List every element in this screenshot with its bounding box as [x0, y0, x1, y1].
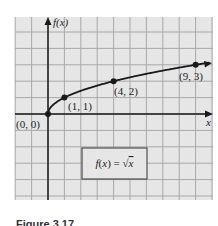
data-point — [45, 111, 51, 117]
point-label-origin: (0, 0) — [16, 118, 40, 131]
sqrt-function-graph: f(x) = √x f(x) x (0, 0) (1, 1) (4, 2) (9… — [0, 0, 218, 226]
point-label-9-3: (9, 3) — [179, 70, 203, 83]
data-point — [193, 62, 199, 68]
formula-text: f(x) = √x — [96, 157, 134, 170]
y-axis-label: f(x) — [53, 16, 69, 29]
point-label-4-2: (4, 2) — [114, 85, 138, 98]
data-point — [111, 78, 117, 84]
point-label-1-1: (1, 1) — [68, 100, 92, 113]
figure-caption: Figure 3.17 — [16, 218, 74, 226]
data-point — [61, 95, 67, 101]
x-axis-label: x — [205, 116, 211, 128]
